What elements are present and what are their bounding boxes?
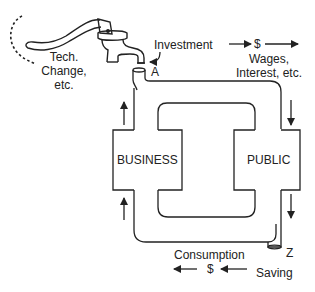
arrow-curved-icon xyxy=(150,52,160,62)
wages-dollar-symbol: $ xyxy=(254,37,261,51)
investment-label: Investment xyxy=(154,38,213,52)
consumption-dollar-symbol: $ xyxy=(207,262,214,276)
saving-label: Saving xyxy=(256,266,293,280)
wages-label-line1: Wages, xyxy=(232,52,306,66)
circular-flow-diagram: Tech. Change, etc. Investment A $ Wages,… xyxy=(0,0,315,292)
tech-change-arc xyxy=(11,16,36,64)
public-label: PUBLIC xyxy=(247,153,290,167)
wages-label-line2: Interest, etc. xyxy=(232,66,306,80)
pump-label-line2: Change, xyxy=(36,64,92,78)
pump-label: Tech. Change, etc. xyxy=(36,50,92,92)
pump-label-line1: Tech. xyxy=(36,50,92,64)
business-label: BUSINESS xyxy=(117,153,178,167)
pipe-opening-a xyxy=(133,68,150,90)
point-z-label: Z xyxy=(286,246,293,260)
wages-label: Wages, Interest, etc. xyxy=(232,52,306,80)
point-a-label: A xyxy=(151,65,159,79)
pump-label-line3: etc. xyxy=(36,78,92,92)
consumption-label: Consumption xyxy=(174,248,245,262)
